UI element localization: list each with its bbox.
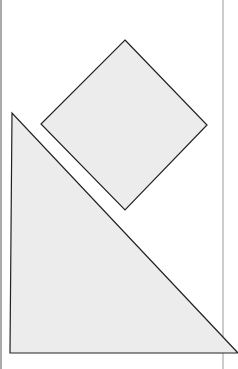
diagram-canvas [0,0,238,369]
